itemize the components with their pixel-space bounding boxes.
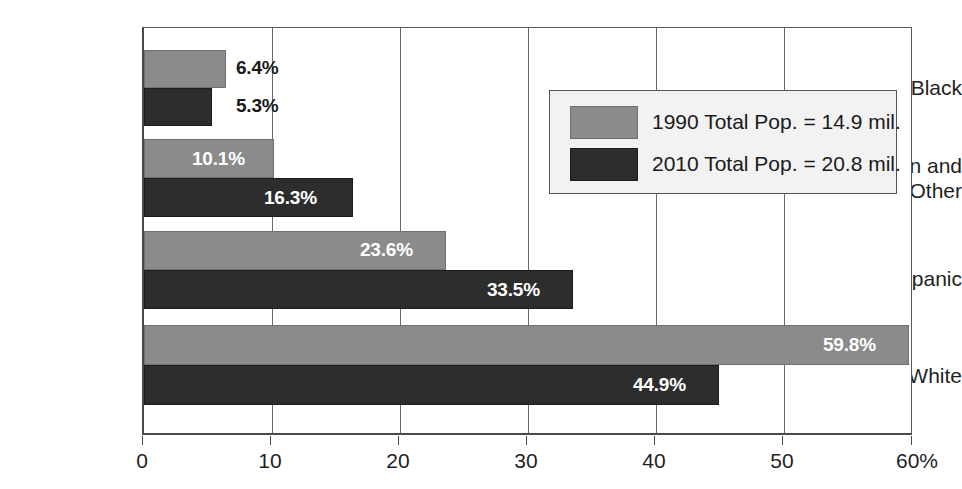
- legend-swatch-2010-icon: [570, 148, 638, 181]
- legend-item-1990: 1990 Total Pop. = 14.9 mil.: [570, 101, 896, 143]
- tick-label-10: 10: [258, 449, 281, 473]
- legend-swatch-1990-icon: [570, 106, 638, 139]
- tick-mark-10: [270, 436, 271, 445]
- bar-value-asian-other-1990: 10.1%: [192, 149, 245, 168]
- tick-label-40: 40: [642, 449, 665, 473]
- bar-asian-other-2010: [144, 178, 353, 217]
- bar-value-hispanic-2010: 33.5%: [487, 280, 540, 299]
- tick-label-30: 30: [514, 449, 537, 473]
- plot-area: 6.4% 5.3% 10.1% 16.3% 23.6% 33.5% 59.8% …: [142, 27, 912, 435]
- bar-value-asian-other-2010: 16.3%: [264, 188, 317, 207]
- bar-black-1990: [144, 50, 226, 88]
- bar-value-black-1990: 6.4%: [236, 58, 279, 77]
- legend-label-1990: 1990 Total Pop. = 14.9 mil.: [652, 110, 901, 134]
- tick-mark-40: [654, 436, 655, 445]
- bar-value-hispanic-1990: 23.6%: [360, 240, 413, 259]
- bar-value-black-2010: 5.3%: [236, 96, 279, 115]
- tick-mark-0: [142, 436, 143, 445]
- bar-white-1990: [144, 325, 909, 365]
- tick-label-60: 60%: [896, 449, 938, 473]
- gridline-50: [784, 28, 785, 433]
- tick-label-20: 20: [386, 449, 409, 473]
- bar-value-white-1990: 59.8%: [823, 335, 876, 354]
- legend-item-2010: 2010 Total Pop. = 20.8 mil.: [570, 143, 896, 185]
- tick-mark-60: [911, 436, 912, 445]
- chart-container: Black Asian and Other Hispanic White 6.4…: [0, 0, 962, 489]
- tick-mark-50: [782, 436, 783, 445]
- bar-black-2010: [144, 88, 212, 126]
- bar-value-white-2010: 44.9%: [633, 375, 686, 394]
- legend-label-2010: 2010 Total Pop. = 20.8 mil.: [652, 152, 901, 176]
- tick-mark-20: [398, 436, 399, 445]
- legend: 1990 Total Pop. = 14.9 mil. 2010 Total P…: [549, 90, 897, 194]
- tick-label-0: 0: [136, 449, 148, 473]
- tick-mark-30: [526, 436, 527, 445]
- tick-label-50: 50: [770, 449, 793, 473]
